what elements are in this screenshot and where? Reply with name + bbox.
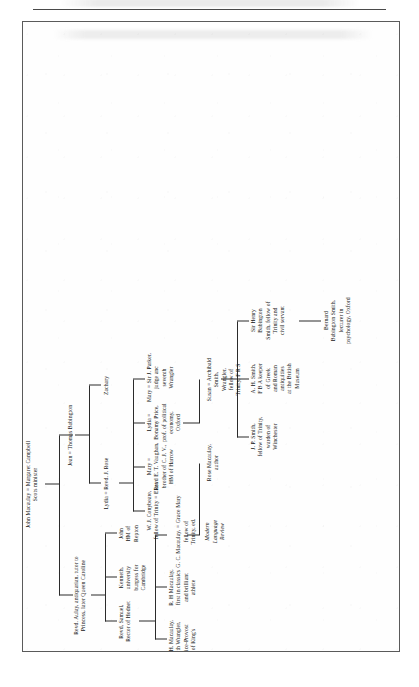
connector-wh-down xyxy=(155,638,167,639)
node-revd-aulay: Revd. Aulay, antiquarian, tutor to Princ… xyxy=(73,535,88,652)
connector-zachary-down xyxy=(89,384,101,385)
connector-root-down xyxy=(45,483,59,484)
connector-mary-vaughan-down xyxy=(133,466,145,467)
connector-aulay-down xyxy=(59,594,73,595)
connector-samuel-down xyxy=(105,620,117,621)
node-john-hm-repton: John HM of Repton xyxy=(118,509,140,557)
node-gc-macaulay: G. C. Macaulay, = Grace Mary fellow of T… xyxy=(168,493,226,569)
connector-gen4-rose-bar xyxy=(133,379,134,511)
connector-henry-smith-down xyxy=(237,320,249,321)
connector-lydia-rose-down xyxy=(89,482,101,483)
running-head-ghost xyxy=(60,0,360,7)
connector-henry-to-bernard xyxy=(299,320,321,321)
node-gc-macaulay-journal: Modern Language Review xyxy=(204,519,225,542)
connector-aulay-stem xyxy=(91,594,105,595)
connector-susan-bar xyxy=(199,379,200,423)
node-sir-henry-babington-smith: Sir Henry Babington Smith, fellow of Tri… xyxy=(250,283,286,357)
connector-rh-down xyxy=(155,586,167,587)
node-zachary: Zachary xyxy=(103,362,110,408)
connector-mary-parker-down xyxy=(133,378,145,379)
connector-gen2-bar xyxy=(59,435,60,595)
connector-lydia-rose-stem xyxy=(119,482,133,483)
family-tree: John Macaulay = Margaret Campbell Scots … xyxy=(23,22,399,651)
genealogy-figure-frame: John Macaulay = Margaret Campbell Scots … xyxy=(22,21,400,652)
page-top-rule xyxy=(33,9,386,10)
connector-lydia-price-down xyxy=(133,422,145,423)
node-susan-archibald-smith: Susan = Archibald Smith, Wrangler, fello… xyxy=(206,325,242,433)
connector-jean-stem xyxy=(75,434,89,435)
connector-samuel-stem xyxy=(139,620,155,621)
connector-price-to-susan xyxy=(183,422,199,423)
rotated-tree-canvas: John Macaulay = Margaret Campbell Scots … xyxy=(23,22,399,651)
node-jean-thomas-babington: Jean = Thomas Babington xyxy=(67,385,74,485)
connector-kenneth-down xyxy=(105,576,117,577)
connector-gen3-right-bar xyxy=(89,385,90,483)
node-gc-macaulay-text: G. C. Macaulay, = Grace Mary fellow of T… xyxy=(175,495,196,567)
node-mary-sir-j-parker: Mary = Sir J. Parker, judge anc seventh … xyxy=(146,341,175,413)
node-john-macaulay: John Macaulay = Margaret Campbell Scots … xyxy=(25,424,40,544)
connector-john-repton-down xyxy=(105,532,117,533)
node-rose-macaulay: Rose Macaulay, author xyxy=(206,431,221,493)
connector-jp-smith-down xyxy=(237,436,249,437)
node-jp-smith: J. P. Smith, fellow of Trinity, warden o… xyxy=(250,401,279,471)
node-lydia-revd-j-rose: Lydia = Revd. J. Rose xyxy=(103,444,110,522)
node-bernard-babington-smith: Bernard Babington Smith, lecturer in psy… xyxy=(323,275,352,365)
